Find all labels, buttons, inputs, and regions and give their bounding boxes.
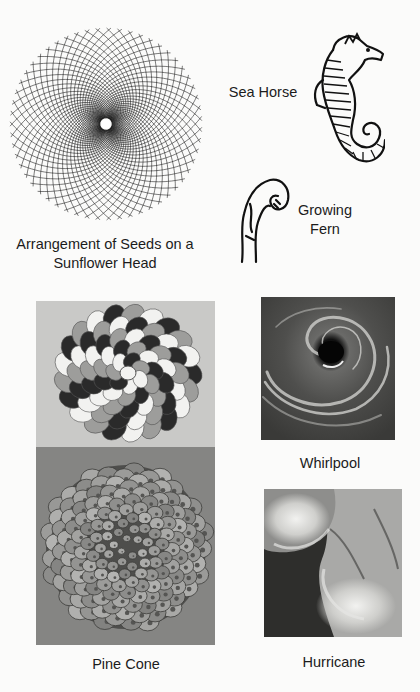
sunflower-spiral-diagram	[6, 24, 206, 224]
seahorse-illustration	[305, 30, 385, 180]
sunflower-figure	[6, 24, 206, 224]
fern-caption: Growing Fern	[295, 201, 355, 239]
sunflower-caption: Arrangement of Seeds on a Sunflower Head	[0, 235, 210, 273]
fern-caption-line2: Fern	[295, 220, 355, 239]
fern-caption-line1: Growing	[295, 201, 355, 220]
hurricane-photo	[264, 489, 402, 637]
whirlpool-caption: Whirlpool	[280, 454, 380, 473]
sunflower-caption-line2: Sunflower Head	[0, 254, 210, 273]
seahorse-caption: Sea Horse	[228, 83, 298, 102]
hurricane-caption: Hurricane	[284, 653, 384, 672]
spiral-rosette-diagram	[36, 301, 215, 448]
whirlpool-photo	[261, 297, 395, 440]
spiral-rosette-figure	[36, 301, 215, 448]
fern-illustration	[236, 174, 296, 266]
pine-cone-photo	[36, 447, 215, 645]
pine-cone-caption: Pine Cone	[56, 655, 196, 674]
sunflower-caption-line1: Arrangement of Seeds on a	[0, 235, 210, 254]
